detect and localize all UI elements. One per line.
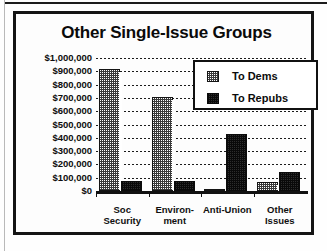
chart-page: Other Single-Issue Groups $1,000,000$900… xyxy=(0,0,327,251)
x-axis-tick xyxy=(149,193,150,197)
scan-top-rule xyxy=(4,2,327,4)
x-axis-tick xyxy=(96,193,97,197)
y-axis-tick-label: $900,000 xyxy=(52,66,92,76)
legend-item-dems: To Dems xyxy=(207,69,278,83)
legend-swatch-dems-icon xyxy=(207,71,219,82)
legend-label-repubs: To Repubs xyxy=(232,92,288,104)
bar-dems xyxy=(99,69,120,191)
scan-left-rule xyxy=(4,0,5,251)
y-axis-tick-label: $0 xyxy=(81,186,92,196)
x-axis-tick xyxy=(254,193,255,197)
x-axis-tick xyxy=(201,193,202,197)
x-axis-baseline xyxy=(96,191,308,194)
x-axis-labels: SocSecurityEnviron-mentAnti-UnionOtherIs… xyxy=(96,204,308,238)
x-axis-group-label: OtherIssues xyxy=(248,204,313,226)
legend-label-dems: To Dems xyxy=(232,70,278,82)
x-axis-label-line: Other xyxy=(248,204,313,215)
y-axis-tick-label: $600,000 xyxy=(52,106,92,116)
chart-title: Other Single-Issue Groups xyxy=(16,23,317,43)
y-axis-tick-label: $200,000 xyxy=(52,159,92,169)
y-axis-tick-label: $700,000 xyxy=(52,93,92,103)
x-axis-label-line: Issues xyxy=(248,215,313,226)
chart-frame: Other Single-Issue Groups $1,000,000$900… xyxy=(13,11,314,235)
bar-dems xyxy=(152,97,173,191)
y-axis-tick-label: $500,000 xyxy=(52,120,92,130)
legend-item-repubs: To Repubs xyxy=(207,91,288,105)
chart-legend: To Dems To Repubs xyxy=(193,60,318,110)
bar-repubs xyxy=(226,134,247,191)
y-axis-tick-label: $1,000,000 xyxy=(44,53,92,63)
legend-swatch-repubs-icon xyxy=(207,93,219,104)
bar-dems xyxy=(257,182,278,191)
y-axis-tick-label: $100,000 xyxy=(52,173,92,183)
bar-repubs xyxy=(279,172,300,191)
x-axis-label-line: ment xyxy=(143,215,208,226)
y-axis-tick-label: $400,000 xyxy=(52,133,92,143)
y-axis-tick-label: $800,000 xyxy=(52,80,92,90)
bar-repubs xyxy=(121,181,142,191)
bar-repubs xyxy=(174,181,195,191)
y-axis-tick-label: $300,000 xyxy=(52,146,92,156)
